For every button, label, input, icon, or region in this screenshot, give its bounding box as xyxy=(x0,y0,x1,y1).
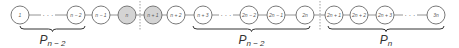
brace-shape xyxy=(20,26,85,32)
graph-node: 3n xyxy=(427,6,445,24)
graph-node: 2n + 2 xyxy=(350,6,368,24)
node-label: 2n − 2 xyxy=(241,12,256,18)
graph-node: 2n xyxy=(296,6,314,24)
path-label-subscript: n − 2 xyxy=(247,39,266,48)
node-label: n xyxy=(126,12,129,18)
path-label-main: P xyxy=(380,33,388,47)
node-label: 2n − 1 xyxy=(268,12,283,18)
node-label: 2n + 2 xyxy=(351,12,366,18)
path-label-main: P xyxy=(39,33,47,47)
path-label-main: P xyxy=(238,33,246,47)
graph-node: n + 2 xyxy=(167,6,185,24)
node-label: n + 1 xyxy=(147,12,158,18)
graph-node: 2n + 3 xyxy=(376,6,394,24)
node-label: 3n xyxy=(433,12,439,18)
node-label: n + 3 xyxy=(197,12,208,18)
graph-node: n + 3 xyxy=(194,6,212,24)
node-label: n − 2 xyxy=(70,12,81,18)
path-label-subscript: n − 2 xyxy=(48,39,67,48)
graph-node-shaded: n xyxy=(118,6,136,24)
node-label: 2n xyxy=(301,12,308,18)
graph-node: 2n + 1 xyxy=(325,6,343,24)
graph-node: 1 xyxy=(11,6,29,24)
graph-node-shaded: n + 1 xyxy=(144,6,162,24)
graph-node: n − 2 xyxy=(67,6,85,24)
path-graph-diagram: 1n − 2n − 1nn + 1n + 2n + 32n − 22n − 12… xyxy=(0,0,459,48)
graph-node: 2n − 2 xyxy=(240,6,258,24)
path-label: Pn − 2 xyxy=(238,33,265,48)
underbrace: Pn − 2 xyxy=(20,26,85,48)
path-label: Pn − 2 xyxy=(39,33,66,48)
node-label: 2n + 1 xyxy=(326,12,341,18)
underbrace: Pn − 2 xyxy=(193,26,310,48)
node-label: 1 xyxy=(19,12,22,18)
underbrace: Pn xyxy=(328,26,444,48)
brace-shape xyxy=(328,26,444,32)
graph-node: n − 1 xyxy=(92,6,110,24)
node-label: n + 2 xyxy=(170,12,181,18)
path-label: Pn xyxy=(380,33,393,48)
brace-shape xyxy=(193,26,310,32)
node-label: 2n + 3 xyxy=(377,12,392,18)
path-label-subscript: n xyxy=(388,39,393,48)
node-label: n − 1 xyxy=(95,12,106,18)
graph-node: 2n − 1 xyxy=(267,6,285,24)
braces: Pn − 2Pn − 2Pn xyxy=(20,26,444,48)
ellipsis-icon: · · · xyxy=(221,12,232,19)
ellipsis-icon: · · · xyxy=(405,12,416,19)
ellipsis-icon: · · · xyxy=(43,12,54,19)
